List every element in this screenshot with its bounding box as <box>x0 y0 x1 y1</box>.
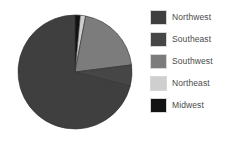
legend-label: Southwest <box>172 56 213 66</box>
legend-swatch-southeast <box>150 32 167 47</box>
legend-label: Midwest <box>172 100 204 110</box>
legend-item[interactable]: Southeast <box>150 28 226 50</box>
legend-item[interactable]: Northwest <box>150 6 226 28</box>
legend-item[interactable]: Northeast <box>150 72 226 94</box>
pie-chart-figure: Northwest Southeast Southwest Northeast … <box>0 0 227 141</box>
legend-swatch-southwest <box>150 54 167 69</box>
legend-label: Northeast <box>172 78 210 88</box>
legend-item[interactable]: Midwest <box>150 94 226 116</box>
pie-slice-group <box>18 15 132 129</box>
legend-swatch-midwest <box>150 98 167 113</box>
legend-swatch-northeast <box>150 76 167 91</box>
pie-plot-area <box>12 10 142 136</box>
pie-svg <box>12 10 142 136</box>
legend-swatch-northwest <box>150 10 167 25</box>
legend-label: Northwest <box>172 12 211 22</box>
chart-legend: Northwest Southeast Southwest Northeast … <box>150 6 226 118</box>
legend-label: Southeast <box>172 34 211 44</box>
legend-item[interactable]: Southwest <box>150 50 226 72</box>
